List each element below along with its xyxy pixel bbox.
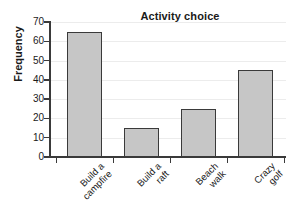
bar — [124, 128, 159, 157]
bar — [181, 109, 216, 157]
x-axis-tick — [227, 157, 228, 163]
y-axis-tick-labels: 010203040506070 — [0, 0, 44, 205]
y-axis-tick-label: 10 — [2, 132, 44, 143]
x-axis-tick — [56, 157, 57, 163]
y-axis-tick-label: 0 — [2, 151, 44, 162]
x-axis-tick — [284, 157, 285, 163]
x-axis-line — [49, 156, 286, 158]
x-axis-category-label: Beachwalk — [163, 161, 227, 205]
bar — [238, 70, 273, 157]
bar-chart: Activity choice Frequency 01020304050607… — [0, 0, 296, 205]
x-axis-category-label: Build acampfire — [49, 161, 113, 205]
x-axis-tick — [170, 157, 171, 163]
y-axis-tick-label: 50 — [2, 55, 44, 66]
y-axis-tick-label: 30 — [2, 93, 44, 104]
y-axis-tick-label: 40 — [2, 74, 44, 85]
x-axis-category-label: Build araft — [106, 161, 170, 205]
y-axis-tick-label: 60 — [2, 35, 44, 46]
chart-title: Activity choice — [105, 10, 255, 22]
y-axis-tick-label: 20 — [2, 112, 44, 123]
y-axis-line — [49, 21, 51, 158]
x-axis-tick — [113, 157, 114, 163]
bar — [67, 32, 102, 157]
y-axis-tick-label: 70 — [2, 16, 44, 27]
x-axis-category-label: Crazygolf — [220, 161, 284, 205]
plot-area — [50, 22, 286, 157]
bar-series — [50, 22, 286, 157]
